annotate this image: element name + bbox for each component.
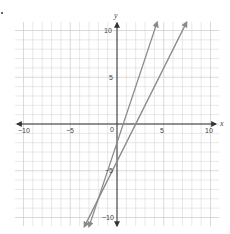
x-tick-minus5: −5 xyxy=(66,127,74,134)
y-tick-minus10: −10 xyxy=(102,214,114,221)
y-tick-5: 5 xyxy=(109,74,113,81)
coordinate-plane: x y 0 −10 −5 5 10 10 5 −5 −10 xyxy=(0,0,230,234)
x-axis-label: x xyxy=(219,119,224,128)
x-tick-5: 5 xyxy=(160,127,164,134)
x-tick-minus10: −10 xyxy=(18,127,30,134)
x-tick-10: 10 xyxy=(205,127,213,134)
y-tick-minus5: −5 xyxy=(105,167,113,174)
y-axis-label: y xyxy=(113,11,118,20)
y-tick-10: 10 xyxy=(104,27,112,34)
origin-label: 0 xyxy=(110,126,114,133)
